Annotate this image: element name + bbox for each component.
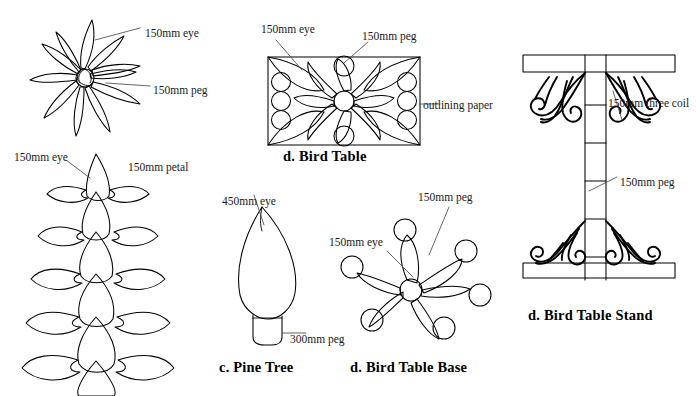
figure-pine-tree: 450mm eye 300mm peg c. Pine Tree bbox=[210, 185, 330, 345]
figure-bird-table-stand: 150mm three coil 150mm peg d. Bird Table… bbox=[505, 25, 695, 310]
caption-pine-tree: c. Pine Tree bbox=[219, 360, 293, 375]
caption-bird-table-base: d. Bird Table Base bbox=[350, 360, 467, 375]
label-pine-cone-eye: 150mm eye bbox=[14, 152, 68, 164]
bird-table-leaders bbox=[276, 40, 440, 104]
label-bird-table-base-peg: 150mm peg bbox=[418, 192, 473, 204]
stand-post bbox=[585, 55, 606, 280]
stand-scroll-top-left bbox=[531, 73, 585, 122]
caption-bird-table: d. Bird Table bbox=[283, 149, 367, 164]
bird-table-base-leaders bbox=[387, 207, 449, 277]
pine-cone-center-column bbox=[78, 192, 115, 396]
illustration-page: 150mm eye 150mm peg bbox=[0, 0, 696, 396]
pine-cone-tip bbox=[86, 154, 109, 201]
pine-tree-body bbox=[239, 207, 296, 319]
label-pine-cone-petal: 150mm petal bbox=[128, 162, 188, 174]
pine-cone-right-petals bbox=[108, 187, 174, 380]
bird-table-peg-circles bbox=[272, 56, 417, 146]
pine-tree-leaders bbox=[254, 195, 306, 333]
figure-pine-cone: 150mm eye 150mm petal bbox=[0, 148, 210, 396]
caption-bird-table-stand: d. Bird Table Stand bbox=[528, 308, 653, 323]
star-flower-petals bbox=[30, 20, 140, 136]
stand-scroll-bottom-right bbox=[606, 221, 660, 264]
label-star-flower-peg: 150mm peg bbox=[153, 85, 208, 97]
label-bird-table-eye: 150mm eye bbox=[261, 24, 315, 36]
label-bird-table-outlining-paper: outlining paper bbox=[423, 100, 493, 112]
stand-top-plate bbox=[523, 55, 675, 72]
figure-bird-table-base: 150mm peg 150mm eye d. Bird Table Base bbox=[325, 185, 505, 345]
label-stand-three-coil: 150mm three coil bbox=[608, 98, 689, 110]
pine-cone-leaders bbox=[66, 160, 90, 178]
label-bird-table-peg: 150mm peg bbox=[362, 31, 417, 43]
label-stand-peg: 150mm peg bbox=[620, 177, 675, 189]
figure-star-flower: 150mm eye 150mm peg bbox=[0, 0, 240, 150]
label-pine-tree-eye: 450mm eye bbox=[222, 196, 276, 208]
stand-scroll-bottom-left bbox=[531, 221, 585, 264]
figure-bird-table: 150mm eye 150mm peg outlining paper d. B… bbox=[250, 0, 480, 170]
label-bird-table-base-eye: 150mm eye bbox=[329, 237, 383, 249]
bird-table-petals bbox=[294, 59, 394, 143]
label-star-flower-eye: 150mm eye bbox=[145, 28, 199, 40]
stand-base-plate bbox=[523, 263, 675, 278]
